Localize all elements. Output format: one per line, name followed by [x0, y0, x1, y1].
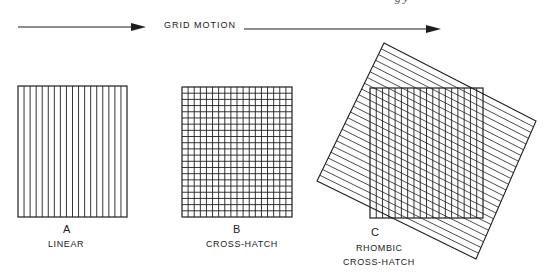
rotated-grid-line: [339, 135, 496, 213]
rotated-grid-line: [373, 66, 526, 144]
rotated-grid-line: [376, 60, 529, 138]
rotated-grid-line: [325, 164, 483, 242]
rotated-grid-line: [370, 72, 523, 150]
rotated-grid-line: [356, 101, 511, 179]
rotated-grid-line: [337, 141, 494, 219]
panel-a-caption: LINEAR: [48, 239, 84, 249]
panel-b-letter: B: [233, 223, 240, 235]
arrowhead-right-icon: [131, 23, 146, 31]
grid-motion-diagram: g y GRID MOTION A LINEAR B CROSS-HATCH C…: [0, 0, 549, 276]
grid-motion-label: GRID MOTION: [164, 20, 236, 30]
rotated-grid-line: [345, 124, 501, 202]
panel-c-caption-line1: RHOMBIC: [356, 243, 403, 253]
rotated-grid-line: [348, 118, 504, 196]
diagram-canvas: [0, 0, 549, 276]
rotated-grid-line: [367, 78, 521, 156]
cutoff-caption: g y: [395, 0, 408, 4]
panel-a-letter: A: [63, 223, 70, 235]
rotated-grid-line: [364, 83, 518, 161]
arrowhead-right-icon: [426, 25, 441, 33]
rotated-grid-line: [320, 175, 479, 253]
panel-c-caption-line2: CROSS-HATCH: [343, 257, 415, 267]
panel-b-caption: CROSS-HATCH: [206, 239, 278, 249]
rotated-grid-line: [334, 147, 491, 225]
rotated-grid-line: [328, 158, 486, 236]
panel-c-letter: C: [371, 226, 379, 238]
rotated-grid-line: [359, 95, 514, 173]
